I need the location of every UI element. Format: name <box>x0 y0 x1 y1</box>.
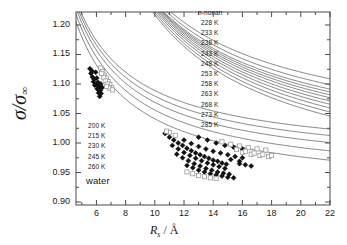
legend-n-nonan-item: 285 K <box>201 121 219 128</box>
legend-n-nonan-item: 248 K <box>201 60 219 67</box>
x-tick-label: 20 <box>291 208 311 218</box>
x-tick-label: 10 <box>145 208 165 218</box>
legend-n-nonan-item: 253 K <box>201 70 219 77</box>
legend-n-nonan-item: 233 K <box>201 29 219 36</box>
y-tick-label: 0.90 <box>36 196 70 206</box>
x-tick-label: 12 <box>174 208 194 218</box>
legend-n-nonan-item: 273 K <box>201 111 219 118</box>
legend-water-item: 230 K <box>88 142 106 149</box>
x-tick-label: 14 <box>203 208 223 218</box>
legend-n-nonan-item: 258 K <box>201 80 219 87</box>
x-tick-label: 8 <box>116 208 136 218</box>
y-tick-label: 1.05 <box>36 108 70 118</box>
x-tick-label: 6 <box>86 208 106 218</box>
x-axis-label-unit: / Å <box>160 223 178 237</box>
legend-n-nonan-header: n-nonan <box>198 9 223 16</box>
y-axis-label: σ/σ∞ <box>8 69 31 139</box>
legend-n-nonan-item: 243 K <box>201 50 219 57</box>
legend-n-nonan-item: 268 K <box>201 101 219 108</box>
legend-water-item: 260 K <box>88 163 106 170</box>
y-tick-label: 1.20 <box>36 19 70 29</box>
legend-water-item: 215 K <box>88 132 106 139</box>
legend-water-item: 200 K <box>88 122 106 129</box>
y-tick-label: 1.15 <box>36 48 70 58</box>
legend-n-nonan-item: 263 K <box>201 90 219 97</box>
y-tick-label: 1.10 <box>36 78 70 88</box>
x-tick-label: 16 <box>232 208 252 218</box>
figure-root: σ/σ∞ Rs / Å 0.900.951.001.051.101.151.20… <box>0 0 347 245</box>
x-axis-label: Rs / Å <box>150 223 178 239</box>
y-tick-label: 0.95 <box>36 167 70 177</box>
legend-water-item: 245 K <box>88 153 106 160</box>
y-axis-label-main: σ/σ <box>8 95 30 120</box>
legend-water-footer: water <box>86 175 110 186</box>
x-tick-label: 22 <box>320 208 340 218</box>
y-tick-label: 1.00 <box>36 137 70 147</box>
x-tick-label: 18 <box>262 208 282 218</box>
y-axis-label-sub: ∞ <box>18 87 30 95</box>
legend-n-nonan-item: 228 K <box>201 19 219 26</box>
legend-n-nonan-item: 238 K <box>201 39 219 46</box>
